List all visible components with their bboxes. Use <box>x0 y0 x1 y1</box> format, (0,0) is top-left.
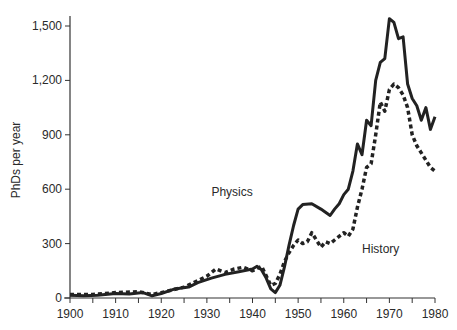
x-tick-label: 1910 <box>102 307 129 321</box>
x-tick-label: 1960 <box>330 307 357 321</box>
phds-line-chart: 03006009001,2001,500 1900191019201930194… <box>0 0 457 330</box>
x-tick-label: 1930 <box>194 307 221 321</box>
y-tick-label: 1,200 <box>32 73 62 87</box>
y-tick-label: 900 <box>42 128 62 142</box>
y-tick-label: 1,500 <box>32 19 62 33</box>
y-axis-label: PhDs per year <box>9 122 23 199</box>
physics-label: Physics <box>211 185 252 199</box>
y-tick-label: 300 <box>42 237 62 251</box>
x-tick-label: 1920 <box>148 307 175 321</box>
x-axis: 190019101920193019401950196019701980 <box>57 298 449 321</box>
x-tick-label: 1940 <box>239 307 266 321</box>
x-tick-label: 1900 <box>57 307 84 321</box>
series-labels: PhysicsHistory <box>211 185 399 255</box>
x-tick-label: 1950 <box>285 307 312 321</box>
y-axis: 03006009001,2001,500 <box>32 16 70 305</box>
y-tick-label: 0 <box>55 291 62 305</box>
x-tick-label: 1980 <box>422 307 449 321</box>
x-tick-label: 1970 <box>376 307 403 321</box>
y-tick-label: 600 <box>42 182 62 196</box>
history-label: History <box>362 242 399 256</box>
